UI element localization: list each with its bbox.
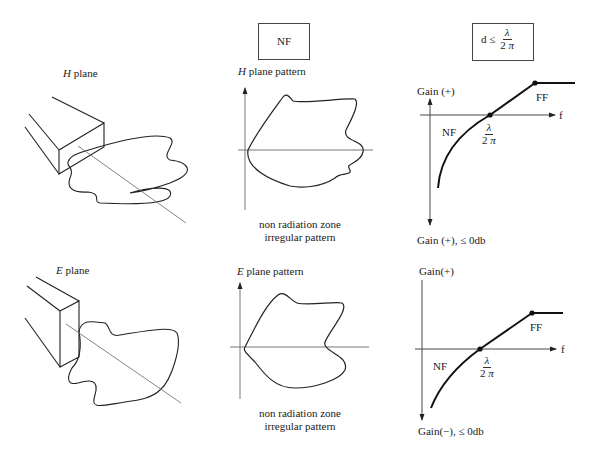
h-pattern-label-symbol: H xyxy=(238,65,246,77)
e-plane-waveguide xyxy=(25,277,79,367)
h-plane-lobe-pattern xyxy=(68,136,188,204)
condition-formula: d ≤ λ 2 π xyxy=(481,27,516,51)
gain2-crossing-den-number: 2 xyxy=(480,367,486,379)
condition-denominator: 2 π xyxy=(498,40,516,52)
nf-box: NF xyxy=(258,23,310,60)
e-plane-axis-line xyxy=(66,324,181,403)
h-caption-line1: non radiation zone xyxy=(245,219,355,230)
gain-chart-1-axes xyxy=(420,99,555,225)
e-plane-label-text: plane xyxy=(65,264,89,276)
condition-fraction: λ 2 π xyxy=(498,27,516,51)
gain2-nf-label: NF xyxy=(433,361,447,372)
h-plane-waveguide xyxy=(25,97,104,174)
gain-chart-2-axes xyxy=(415,280,556,420)
h-caption-line2: irregular pattern xyxy=(245,232,355,243)
gain1-crossing-fraction: λ 2 π xyxy=(480,122,498,146)
gain1-bottom-label: Gain (+), ≤ 0db xyxy=(417,235,485,246)
e-pattern-label-symbol: E xyxy=(237,265,244,277)
waveguide-top-edge xyxy=(52,97,104,123)
e-pattern-label-text: plane pattern xyxy=(246,265,303,277)
h-plane-label-text: plane xyxy=(74,67,98,79)
gain2-crossing-fraction: λ 2 π xyxy=(478,355,496,379)
h-pattern-axes xyxy=(238,88,373,210)
condition-box: d ≤ λ 2 π xyxy=(472,23,534,61)
condition-denominator-symbol: π xyxy=(509,39,515,51)
h-pattern-label-text: plane pattern xyxy=(249,65,306,77)
e-caption-line1: non radiation zone xyxy=(245,408,355,419)
gain1-top-label: Gain (+) xyxy=(417,86,455,97)
h-plane-pattern-label: H plane pattern xyxy=(238,66,306,77)
e-plane-pattern-label: E plane pattern xyxy=(237,266,304,277)
h-plane-pattern-curve xyxy=(248,95,364,187)
gain1-ff-label: FF xyxy=(536,92,548,103)
waveguide-aperture xyxy=(60,301,79,367)
gain2-crossing-den-symbol: π xyxy=(488,367,494,379)
waveguide-mid-edge xyxy=(29,114,59,150)
gain2-crossing-denominator: 2 π xyxy=(478,368,496,380)
gain2-f-label: f xyxy=(561,344,565,355)
gain2-top-label: Gain(+) xyxy=(419,266,454,277)
waveguide-mid-edge xyxy=(27,286,60,311)
waveguide-bottom-edge xyxy=(25,127,59,174)
gain1-crossing-label: λ 2 π xyxy=(480,122,498,146)
h-plane-axis-line xyxy=(78,146,186,223)
gain1-crossing-point xyxy=(487,112,492,117)
gain1-f-label: f xyxy=(559,110,563,121)
h-plane-label-symbol: H xyxy=(63,67,71,79)
e-plane-label-symbol: E xyxy=(56,264,63,276)
gain1-nf-label: NF xyxy=(442,127,456,138)
e-pattern-axes xyxy=(230,283,369,399)
e-plane-label: E plane xyxy=(56,265,89,276)
condition-denominator-number: 2 xyxy=(500,39,506,51)
gain2-crossing-point xyxy=(477,346,482,351)
e-plane-pattern-curve xyxy=(244,294,345,388)
gain2-ff-point xyxy=(529,310,534,315)
gain1-transition-line xyxy=(490,83,535,115)
h-plane-label: H plane xyxy=(63,68,98,79)
condition-lhs: d ≤ xyxy=(481,34,495,45)
gain1-ff-point xyxy=(532,80,537,85)
gain2-crossing-label: λ 2 π xyxy=(478,355,496,379)
gain2-nf-curve xyxy=(431,349,480,408)
e-caption-line2: irregular pattern xyxy=(245,421,355,432)
nf-box-label: NF xyxy=(259,36,309,47)
gain1-crossing-den-symbol: π xyxy=(490,134,496,146)
waveguide-bottom-edge xyxy=(25,318,60,367)
gain1-crossing-den-number: 2 xyxy=(482,134,488,146)
gain1-crossing-denominator: 2 π xyxy=(480,135,498,147)
gain2-ff-label: FF xyxy=(530,322,542,333)
gain2-bottom-label: Gain(−), ≤ 0db xyxy=(418,426,484,437)
gain2-transition-line xyxy=(480,313,532,349)
